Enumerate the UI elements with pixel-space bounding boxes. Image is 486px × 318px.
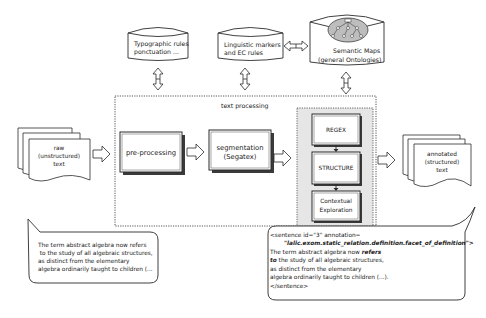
arrow-preprocessing-to-segmentation-icon bbox=[187, 144, 204, 160]
pre-processing-label: pre-processing bbox=[126, 149, 176, 157]
kb-linguistic-line2: and EC rules bbox=[224, 49, 263, 56]
raw-text-line2: (unstructured) bbox=[38, 153, 80, 159]
output-line3: as distinct from the elementary bbox=[270, 266, 362, 273]
input-example-line3: as distinct from the elementary bbox=[38, 258, 130, 265]
output-tag-open: <sentence id="3" annotation= bbox=[270, 232, 361, 238]
input-example-line4: algebra ordinarily taught to children (.… bbox=[38, 266, 153, 273]
output-line4: algebra ordinarily taught to children (.… bbox=[270, 274, 389, 281]
structure-label: STRUCTURE bbox=[318, 165, 353, 171]
double-arrow-typographic-icon bbox=[153, 68, 163, 90]
input-example-callout: The term abstract algebra now refers to … bbox=[28, 219, 158, 283]
contextual-label-line2: Exploration bbox=[320, 207, 353, 214]
annotated-text-line3: text bbox=[436, 167, 448, 173]
pipeline-diagram: Typographic rules ponctuation ... Lingui… bbox=[0, 0, 486, 318]
contextual-label-line1: Contextual bbox=[320, 198, 352, 204]
output-tag-close: </sentence> bbox=[270, 283, 308, 289]
annotation-panel: REGEX STRUCTURE Contextual Exploration bbox=[297, 108, 373, 226]
double-arrow-linguistic-semantic-icon bbox=[284, 41, 308, 51]
contextual-exploration-step: Contextual Exploration bbox=[312, 191, 362, 223]
kb-linguistic-line1: Linguistic markers bbox=[224, 41, 281, 49]
raw-text-document: raw (unstructured) text bbox=[18, 128, 90, 181]
segmentation-step: segmentation (Segatex) bbox=[209, 130, 274, 173]
input-example-line1: The term abstract algebra now refers bbox=[37, 242, 147, 249]
text-processing-label: text processing bbox=[221, 102, 269, 110]
output-line2: to the study of all algebraic structures… bbox=[270, 257, 384, 264]
kb-typographic-line2: ponctuation ... bbox=[134, 48, 179, 56]
structure-step: STRUCTURE bbox=[312, 152, 362, 186]
double-arrow-semantic-icon bbox=[341, 72, 351, 94]
kb-typographic-rules: Typographic rules ponctuation ... bbox=[128, 28, 189, 61]
kb-linguistic-markers: Linguistic markers and EC rules bbox=[218, 28, 283, 61]
annotated-text-line2: (structured) bbox=[425, 159, 460, 165]
arrow-segmentation-to-annotation-icon bbox=[274, 150, 291, 166]
arrow-raw-to-preprocessing-icon bbox=[93, 146, 110, 162]
arrow-annotation-to-output-icon bbox=[378, 152, 395, 168]
annotated-text-document: annotated (structured) text bbox=[403, 135, 471, 187]
output-line2-plain: the study of all algebraic structures, bbox=[277, 257, 384, 264]
segmentation-label-line1: segmentation bbox=[217, 144, 264, 152]
output-line2-bold: to bbox=[270, 257, 277, 263]
pre-processing-step: pre-processing bbox=[120, 132, 185, 175]
segmentation-label-line2: (Segatex) bbox=[223, 153, 256, 161]
output-line1-bold: refers bbox=[362, 249, 382, 255]
regex-label: REGEX bbox=[326, 127, 346, 133]
raw-text-line1: raw bbox=[54, 145, 65, 151]
ontology-graph-icon bbox=[328, 18, 368, 42]
regex-step: REGEX bbox=[312, 114, 362, 147]
kb-semantic-maps: Semantic Maps (general Ontologies) bbox=[310, 15, 384, 65]
output-line1: The term abstract algebra now refers bbox=[269, 249, 382, 256]
input-example-line2: to the study of all algebraic structures… bbox=[38, 250, 153, 257]
output-line1-plain: The term abstract algebra now bbox=[269, 249, 362, 256]
kb-semantic-line1: Semantic Maps bbox=[333, 47, 380, 55]
kb-typographic-line1: Typographic rules bbox=[133, 40, 189, 48]
output-annotation-value: "lalic.exom.static_relation.definition.f… bbox=[284, 240, 474, 247]
kb-semantic-line2: (general Ontologies) bbox=[318, 56, 382, 64]
double-arrow-linguistic-icon bbox=[240, 68, 250, 90]
raw-text-line3: text bbox=[53, 161, 65, 167]
annotated-text-line1: annotated bbox=[427, 151, 457, 157]
